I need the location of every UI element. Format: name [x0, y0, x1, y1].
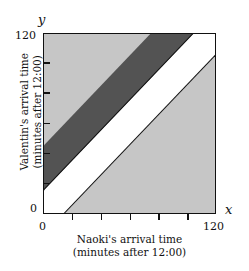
- y-axis-tick-20: [43, 183, 50, 185]
- x-axis-tick-20: [72, 213, 74, 220]
- plot-area: [43, 33, 216, 214]
- y-axis-title-line-1: Valentin's arrival time: [18, 24, 31, 199]
- y-axis-tick-80: [43, 92, 50, 94]
- x-axis-tick-40: [101, 213, 103, 220]
- y-axis-tick-40: [43, 153, 50, 155]
- y-axis-tick-60: [43, 123, 50, 125]
- x-axis-title-line-1: Naoki's arrival time: [43, 233, 216, 246]
- y-axis-title-line-2: (minutes after 12:00): [31, 24, 44, 199]
- y-axis-tick-100: [43, 62, 50, 64]
- x-axis-tick-60: [130, 213, 132, 220]
- x-axis-tick-100: [187, 213, 189, 220]
- x-axis-max-label: 120: [203, 221, 224, 232]
- x-axis-min-label: 0: [39, 221, 46, 232]
- x-axis-title-line-2: (minutes after 12:00): [43, 246, 216, 259]
- y-axis-min-label: 0: [30, 203, 37, 214]
- x-axis-letter: x: [225, 203, 232, 216]
- probability-diagram-figure: y x 120 0 0 120 Naoki's arrival time (mi…: [0, 0, 249, 271]
- x-axis-title: Naoki's arrival time (minutes after 12:0…: [43, 233, 216, 259]
- y-axis-title: Valentin's arrival time (minutes after 1…: [18, 24, 44, 199]
- x-axis-tick-80: [158, 213, 160, 220]
